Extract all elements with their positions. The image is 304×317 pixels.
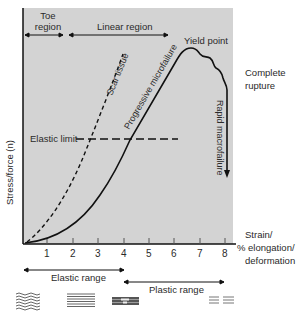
x-tick-label: 6 — [171, 248, 177, 260]
crimped-fibers-icon — [16, 293, 40, 310]
complete-rupture-line2: rupture — [245, 79, 286, 92]
x-tick-label: 1 — [44, 248, 50, 260]
x-tick-label: 2 — [70, 248, 76, 260]
toe-region-label: Toe region — [30, 10, 66, 32]
complete-rupture-line1: Complete — [245, 66, 286, 79]
elastic-limit-label: Elastic limit — [30, 133, 78, 145]
rapid-macrofailure-label: Rapid macrofailure — [215, 100, 225, 176]
stress-strain-diagram: Stress/force (n) Scar tissue Progressive… — [0, 0, 304, 317]
complete-rupture-label: Complete rupture — [245, 66, 286, 92]
toe-region-line1: Toe — [30, 10, 66, 21]
y-axis-label: Stress/force (n) — [4, 140, 15, 205]
x-tick-label: 5 — [146, 248, 152, 260]
partially-torn-fibers-icon — [112, 297, 139, 305]
straight-fibers-icon — [67, 294, 95, 307]
x-axis-label-line3: deformation — [237, 254, 295, 267]
linear-region-label: Linear region — [97, 21, 152, 33]
x-tick-label: 4 — [121, 248, 127, 260]
yield-point-label: Yield point — [184, 35, 228, 47]
plastic-range-label: Plastic range — [149, 284, 204, 296]
x-axis-label: Strain/ % elongation/ deformation — [237, 228, 295, 267]
x-axis-label-line1: Strain/ — [237, 228, 295, 241]
toe-region-line2: region — [30, 21, 66, 32]
ruptured-fibers-icon — [209, 297, 234, 303]
x-tick-label: 3 — [95, 248, 101, 260]
x-tick-label: 8 — [222, 248, 228, 260]
x-tick-label: 7 — [197, 248, 203, 260]
x-axis-label-line2: % elongation/ — [237, 241, 295, 254]
elastic-range-label: Elastic range — [51, 272, 106, 284]
